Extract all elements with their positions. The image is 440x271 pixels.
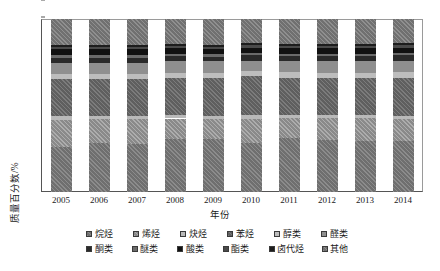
bar-segment-ether-2009 xyxy=(203,54,224,57)
legend-swatch-alkyne-icon xyxy=(180,231,186,237)
bar-segment-ketone-2008 xyxy=(165,56,186,61)
bar-segment-acid-2010 xyxy=(241,48,262,53)
legend-item-ether[interactable]: 醚类 xyxy=(132,242,178,255)
legend-item-other[interactable]: 其他 xyxy=(322,242,354,255)
legend-item-alkane[interactable]: 烷烃 xyxy=(86,227,133,240)
bar-segment-ketone-2014 xyxy=(393,55,414,60)
bar-segment-alkyne-2009 xyxy=(203,116,224,119)
legend-swatch-ketone-icon xyxy=(86,246,92,252)
bar-segment-ester-2012 xyxy=(317,46,338,49)
bar-segment-alcohol-2011 xyxy=(279,72,300,78)
legend-item-alkene[interactable]: 烯烃 xyxy=(133,227,180,240)
bar-segment-ester-2005 xyxy=(51,47,72,50)
legend-row-2: 酮类醚类酸类酯类卤代烃其他 xyxy=(86,241,354,256)
bar-segment-alkene-2007 xyxy=(127,119,148,143)
bar-segment-alkyne-2013 xyxy=(355,115,376,118)
bar-segment-alkyne-2007 xyxy=(127,116,148,119)
bar-segment-other-2011 xyxy=(279,19,300,44)
legend-item-benzene[interactable]: 苯烃 xyxy=(227,227,274,240)
bar-segment-alcohol-2014 xyxy=(393,72,414,78)
bar-segment-halo-2013 xyxy=(355,44,376,46)
bar-segment-ketone-2009 xyxy=(203,57,224,61)
legend-swatch-other-icon xyxy=(322,246,328,252)
legend-item-ketone[interactable]: 酮类 xyxy=(86,242,132,255)
bar-2009 xyxy=(203,19,224,192)
bar-segment-aldehyde-2012 xyxy=(317,61,338,72)
bar-segment-acid-2011 xyxy=(279,48,300,53)
bar-segment-alkene-2006 xyxy=(89,119,110,142)
bar-segment-halo-2005 xyxy=(51,45,72,47)
bar-segment-alkyne-2014 xyxy=(393,116,414,119)
chart-legend: 烷烃烯烃炔烃苯烃醇类醛类 酮类醚类酸类酯类卤代烃其他 xyxy=(86,226,354,256)
bar-segment-alcohol-2008 xyxy=(165,73,186,78)
bar-segment-other-2005 xyxy=(51,19,72,45)
bar-segment-alcohol-2010 xyxy=(241,71,262,76)
bar-2013 xyxy=(355,19,376,192)
bar-segment-ether-2014 xyxy=(393,53,414,56)
bar-segment-alcohol-2012 xyxy=(317,73,338,78)
legend-item-alcohol[interactable]: 醇类 xyxy=(274,227,321,240)
bar-segment-alcohol-2007 xyxy=(127,74,148,79)
bar-segment-acid-2009 xyxy=(203,49,224,54)
bar-2014 xyxy=(393,19,414,192)
legend-label-halo: 卤代烃 xyxy=(277,242,304,255)
legend-item-halo[interactable]: 卤代烃 xyxy=(269,242,322,255)
bar-segment-alkyne-2008 xyxy=(165,115,186,118)
bar-segment-halo-2012 xyxy=(317,44,338,46)
bar-segment-halo-2011 xyxy=(279,44,300,46)
bar-2012 xyxy=(317,19,338,192)
bar-segment-acid-2014 xyxy=(393,48,414,53)
stacked-bar-chart: 质量百分数/% 0102030405060708090100 200520062… xyxy=(0,0,440,271)
bar-segment-alkane-2010 xyxy=(241,143,262,192)
bar-segment-other-2009 xyxy=(203,19,224,45)
legend-label-ketone: 酮类 xyxy=(95,242,113,255)
x-tick-label-2010: 2010 xyxy=(231,195,271,206)
bar-segment-aldehyde-2005 xyxy=(51,63,72,73)
bar-segment-benzene-2005 xyxy=(51,79,72,116)
x-tick-label-2009: 2009 xyxy=(193,195,233,206)
bar-segment-halo-2008 xyxy=(165,44,186,46)
bar-segment-alkyne-2011 xyxy=(279,115,300,118)
bar-segment-ether-2008 xyxy=(165,54,186,57)
bar-segment-ether-2011 xyxy=(279,54,300,57)
bar-segment-alkane-2014 xyxy=(393,141,414,192)
legend-label-alcohol: 醇类 xyxy=(283,227,301,240)
bar-segment-alcohol-2006 xyxy=(89,74,110,79)
legend-label-other: 其他 xyxy=(330,242,348,255)
bar-segment-alkyne-2012 xyxy=(317,115,338,118)
legend-item-aldehyde[interactable]: 醛类 xyxy=(321,227,354,240)
bar-segment-acid-2013 xyxy=(355,48,376,53)
bar-segment-aldehyde-2006 xyxy=(89,63,110,73)
y-axis-ticks: 0102030405060708090100 xyxy=(0,0,41,173)
legend-swatch-benzene-icon xyxy=(227,231,233,237)
bar-segment-aldehyde-2013 xyxy=(355,61,376,72)
bar-segment-alkyne-2005 xyxy=(51,116,72,120)
legend-label-alkene: 烯烃 xyxy=(142,227,160,240)
bar-segment-ester-2011 xyxy=(279,46,300,49)
y-tick-mark-100 xyxy=(41,0,45,1)
bar-2006 xyxy=(89,19,110,192)
legend-label-ether: 醚类 xyxy=(140,242,158,255)
bar-segment-ether-2013 xyxy=(355,54,376,57)
legend-item-acid[interactable]: 酸类 xyxy=(177,242,223,255)
bar-segment-other-2006 xyxy=(89,19,110,45)
bar-segment-acid-2007 xyxy=(127,49,148,55)
bar-segment-other-2012 xyxy=(317,19,338,44)
bar-segment-benzene-2013 xyxy=(355,78,376,115)
bar-segment-halo-2007 xyxy=(127,45,148,47)
legend-label-benzene: 苯烃 xyxy=(236,227,254,240)
legend-swatch-alkane-icon xyxy=(86,231,92,237)
bar-segment-alkene-2009 xyxy=(203,119,224,139)
legend-item-alkyne[interactable]: 炔烃 xyxy=(180,227,227,240)
legend-item-ester[interactable]: 酯类 xyxy=(223,242,269,255)
bar-segment-acid-2005 xyxy=(51,49,72,55)
legend-swatch-acid-icon xyxy=(177,246,183,252)
x-tick-label-2006: 2006 xyxy=(79,195,119,206)
bar-segment-alcohol-2009 xyxy=(203,73,224,78)
bar-segment-aldehyde-2007 xyxy=(127,63,148,73)
bar-segment-alkene-2013 xyxy=(355,118,376,140)
bar-segment-aldehyde-2009 xyxy=(203,61,224,72)
legend-row-1: 烷烃烯烃炔烃苯烃醇类醛类 xyxy=(86,226,354,241)
bar-segment-aldehyde-2011 xyxy=(279,61,300,72)
bar-segment-halo-2006 xyxy=(89,45,110,47)
